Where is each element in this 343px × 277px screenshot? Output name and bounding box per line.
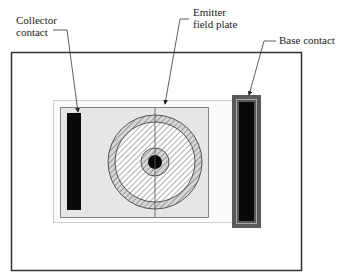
transistor-layout-diagram	[0, 0, 343, 277]
base-contact-metal	[239, 102, 254, 221]
collector-contact	[67, 113, 81, 210]
